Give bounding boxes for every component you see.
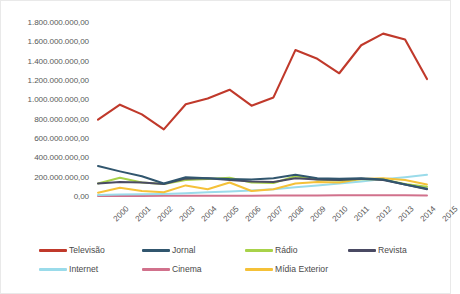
legend-label: Revista	[378, 246, 407, 255]
legend-label: Jornal	[172, 246, 195, 255]
legend-item[interactable]: Cinema	[142, 265, 245, 274]
legend-color-swatch	[348, 249, 376, 252]
legend-item[interactable]: Jornal	[142, 246, 245, 255]
x-axis-tick-label: 2007	[266, 205, 284, 223]
legend-item[interactable]: Revista	[348, 246, 443, 255]
x-axis-tick-label: 2009	[310, 205, 328, 223]
x-axis-tick-label: 2005	[222, 205, 240, 223]
legend-color-swatch	[245, 249, 273, 252]
line-chart: 0,00200.000.000,00400.000.000,00600.000.…	[1, 1, 450, 293]
x-axis-tick-label: 2015	[441, 205, 459, 223]
legend-item[interactable]: Mídia Exterior	[245, 265, 348, 274]
legend-row: InternetCinemaMídia Exterior	[39, 260, 443, 279]
legend-color-swatch	[39, 268, 67, 271]
chart-legend: TelevisãoJornalRádioRevistaInternetCinem…	[39, 241, 443, 285]
x-axis-tick-label: 2013	[397, 205, 415, 223]
x-axis-tick-label: 2004	[200, 205, 218, 223]
legend-item[interactable]: Rádio	[245, 246, 348, 255]
legend-color-swatch	[39, 249, 67, 252]
legend-label: Televisão	[69, 246, 105, 255]
x-axis-tick-label: 2002	[156, 205, 174, 223]
x-axis-tick-label: 2010	[332, 205, 350, 223]
x-axis-tick-label: 2008	[288, 205, 306, 223]
x-axis-tick-label: 2012	[375, 205, 393, 223]
x-axis-tick-label: 2006	[244, 205, 262, 223]
legend-label: Cinema	[172, 265, 202, 274]
legend-label: Internet	[69, 265, 98, 274]
x-axis-tick-label: 2000	[112, 205, 130, 223]
x-axis-tick-label: 2014	[419, 205, 437, 223]
legend-color-swatch	[245, 268, 273, 271]
legend-item[interactable]: Internet	[39, 265, 142, 274]
legend-color-swatch	[142, 268, 170, 271]
legend-color-swatch	[142, 249, 170, 252]
legend-item[interactable]: Televisão	[39, 246, 142, 255]
legend-label: Rádio	[275, 246, 297, 255]
x-axis-tick-label: 2001	[134, 205, 152, 223]
x-axis-tick-label: 2003	[178, 205, 196, 223]
x-axis-tick-label: 2011	[353, 205, 371, 223]
legend-label: Mídia Exterior	[275, 265, 328, 274]
legend-row: TelevisãoJornalRádioRevista	[39, 241, 443, 260]
